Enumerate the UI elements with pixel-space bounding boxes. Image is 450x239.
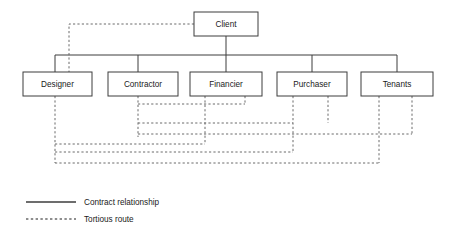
node-contractor[interactable]: Contractor	[108, 72, 178, 96]
diagram-legend: Contract relationshipTortious route	[26, 198, 160, 224]
contract-relationship-lines	[55, 36, 397, 72]
node-label-tenants: Tenants	[383, 80, 412, 89]
node-label-client: Client	[216, 20, 238, 29]
diagram-canvas: ClientDesignerContractorFinancierPurchas…	[0, 0, 450, 239]
legend-item-contract-relationship: Contract relationship	[26, 198, 160, 207]
contract-tortious-route-diagram: ClientDesignerContractorFinancierPurchas…	[0, 0, 450, 239]
diagram-nodes: ClientDesignerContractorFinancierPurchas…	[23, 12, 433, 96]
node-label-purchaser: Purchaser	[293, 80, 331, 89]
node-tenants[interactable]: Tenants	[361, 72, 433, 96]
node-label-designer: Designer	[41, 80, 74, 89]
node-client[interactable]: Client	[194, 12, 258, 36]
tortious-line-0	[69, 24, 194, 72]
node-designer[interactable]: Designer	[23, 72, 92, 96]
node-label-contractor: Contractor	[124, 80, 162, 89]
legend-item-tortious-route: Tortious route	[26, 215, 134, 224]
node-label-financier: Financier	[209, 80, 243, 89]
legend-label-contract-relationship: Contract relationship	[84, 198, 160, 207]
legend-label-tortious-route: Tortious route	[84, 215, 134, 224]
node-financier[interactable]: Financier	[190, 72, 262, 96]
node-purchaser[interactable]: Purchaser	[277, 72, 347, 96]
